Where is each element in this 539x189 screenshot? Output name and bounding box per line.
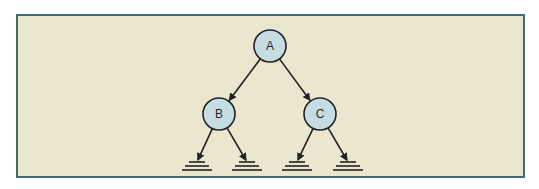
node-label: C bbox=[316, 107, 325, 121]
null-ground-icon bbox=[333, 162, 363, 170]
edge-C-null-3 bbox=[298, 128, 313, 160]
node-label: B bbox=[215, 107, 223, 121]
tree-node-C: C bbox=[304, 98, 336, 130]
tree-node-B: B bbox=[203, 98, 235, 130]
null-ground-icon bbox=[232, 162, 262, 170]
edge-A-C bbox=[279, 59, 309, 100]
null-ground-icon bbox=[282, 162, 312, 170]
tree-node-A: A bbox=[254, 30, 286, 62]
binary-tree-diagram: ABC bbox=[0, 0, 539, 189]
edge-B-null-1 bbox=[198, 129, 213, 161]
node-label: A bbox=[266, 39, 274, 53]
null-ground-icon bbox=[182, 162, 212, 170]
edge-A-B bbox=[229, 59, 260, 101]
edge-B-null-2 bbox=[227, 128, 246, 160]
edge-C-null-4 bbox=[328, 128, 347, 160]
